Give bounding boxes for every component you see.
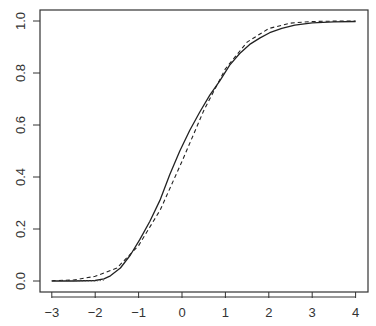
y-tick-label: 0.6 — [13, 116, 28, 134]
x-tick-label: −2 — [88, 305, 103, 320]
cdf-chart: −3−2−101234 0.00.20.40.60.81.0 — [0, 0, 376, 326]
series-dashed-line — [52, 21, 356, 281]
plot-frame — [40, 10, 368, 292]
y-tick-label: 0.2 — [13, 220, 28, 238]
x-tick-label: 2 — [265, 305, 272, 320]
x-tick-label: −1 — [131, 305, 146, 320]
y-axis: 0.00.20.40.60.81.0 — [13, 12, 40, 290]
x-tick-label: 3 — [309, 305, 316, 320]
x-tick-label: 1 — [222, 305, 229, 320]
x-tick-label: 0 — [178, 305, 185, 320]
y-tick-label: 0.8 — [13, 64, 28, 82]
x-tick-label: −3 — [44, 305, 59, 320]
series-solid-line — [52, 22, 356, 282]
y-tick-label: 0.4 — [13, 168, 28, 186]
x-axis: −3−2−101234 — [44, 292, 359, 320]
x-tick-label: 4 — [352, 305, 359, 320]
y-tick-label: 0.0 — [13, 272, 28, 290]
series-layer — [52, 21, 356, 281]
y-tick-label: 1.0 — [13, 12, 28, 30]
